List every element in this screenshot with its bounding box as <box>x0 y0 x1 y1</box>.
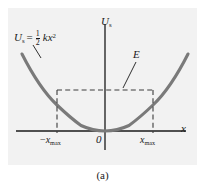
origin-label: 0 <box>96 134 102 145</box>
y-axis-label-variable: U <box>101 15 109 27</box>
right-turning-point-label: xmax <box>140 135 155 146</box>
fraction-denominator: 2 <box>36 38 40 47</box>
y-axis-label: Us <box>101 16 112 29</box>
y-axis-label-subscript: s <box>109 21 112 28</box>
energy-label-leader-line <box>123 62 136 88</box>
potential-energy-formula-label: Us=12kx2 <box>14 30 56 47</box>
figure-container: Us=12kx2 Us x E 0 −xmax xmax (a) <box>0 0 205 189</box>
formula-one-half-fraction: 12 <box>36 30 40 47</box>
fraction-numerator: 1 <box>36 30 40 38</box>
figure-caption: (a) <box>0 170 205 181</box>
formula-lhs-subscript: s <box>22 37 25 44</box>
x-axis-label: x <box>181 123 186 134</box>
right-turning-point-subscript: max <box>144 139 155 146</box>
left-turning-point-subscript: max <box>50 139 61 146</box>
formula-equals-sign: = <box>27 31 33 43</box>
formula-lhs-variable: U <box>14 31 22 43</box>
formula-exponent: 2 <box>53 32 56 39</box>
left-turning-point-label: −xmax <box>40 135 61 146</box>
total-energy-label: E <box>133 49 140 60</box>
